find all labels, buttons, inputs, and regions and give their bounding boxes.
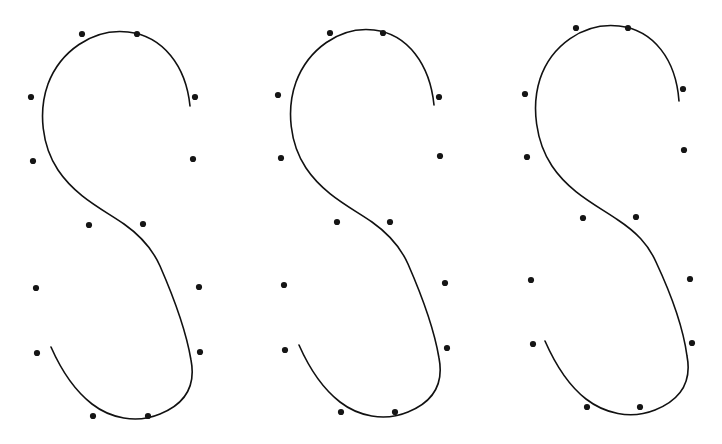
- control-point-dot[interactable]: [380, 30, 386, 36]
- control-point-dot[interactable]: [680, 86, 686, 92]
- control-point-dot[interactable]: [33, 285, 39, 291]
- control-point-dot[interactable]: [338, 409, 344, 415]
- control-point-dot[interactable]: [528, 277, 534, 283]
- control-point-dot[interactable]: [192, 94, 198, 100]
- control-point-dot[interactable]: [34, 350, 40, 356]
- control-point-dot[interactable]: [79, 31, 85, 37]
- control-point-dot[interactable]: [633, 214, 639, 220]
- control-point-dot[interactable]: [637, 404, 643, 410]
- control-point-dot[interactable]: [196, 284, 202, 290]
- control-point-dot[interactable]: [140, 221, 146, 227]
- control-point-dot[interactable]: [687, 276, 693, 282]
- control-point-dot[interactable]: [436, 94, 442, 100]
- control-point-dot[interactable]: [625, 25, 631, 31]
- control-point-dot[interactable]: [282, 347, 288, 353]
- control-point-dot[interactable]: [281, 282, 287, 288]
- control-point-dot[interactable]: [580, 215, 586, 221]
- control-point-dot[interactable]: [197, 349, 203, 355]
- control-point-dot[interactable]: [327, 30, 333, 36]
- control-point-dot[interactable]: [145, 413, 151, 419]
- control-point-dot[interactable]: [530, 341, 536, 347]
- control-point-dot[interactable]: [444, 345, 450, 351]
- control-point-dot[interactable]: [190, 156, 196, 162]
- control-point-dot[interactable]: [134, 31, 140, 37]
- control-point-dot[interactable]: [86, 222, 92, 228]
- control-point-dot[interactable]: [392, 409, 398, 415]
- figure-canvas: [0, 0, 722, 444]
- control-point-dot[interactable]: [30, 158, 36, 164]
- control-point-dot[interactable]: [689, 340, 695, 346]
- control-point-dot[interactable]: [681, 147, 687, 153]
- control-point-dot[interactable]: [278, 155, 284, 161]
- spline-figure-svg: [0, 0, 722, 444]
- control-point-dot[interactable]: [28, 94, 34, 100]
- control-point-dot[interactable]: [387, 219, 393, 225]
- control-point-dot[interactable]: [275, 92, 281, 98]
- control-point-dot[interactable]: [573, 25, 579, 31]
- control-point-dot[interactable]: [90, 413, 96, 419]
- control-point-dot[interactable]: [584, 404, 590, 410]
- figure-background: [0, 0, 722, 444]
- control-point-dot[interactable]: [437, 153, 443, 159]
- control-point-dot[interactable]: [524, 154, 530, 160]
- control-point-dot[interactable]: [522, 91, 528, 97]
- control-point-dot[interactable]: [442, 280, 448, 286]
- control-point-dot[interactable]: [334, 219, 340, 225]
